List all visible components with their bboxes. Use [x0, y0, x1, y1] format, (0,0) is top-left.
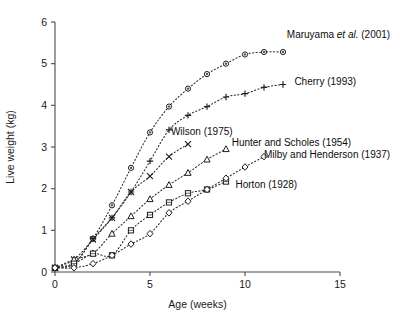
series-label-square: Milby and Henderson (1937) — [264, 149, 390, 160]
series-label-plus: Cherry (1993) — [294, 76, 356, 87]
x-axis-tick-label: 10 — [239, 278, 251, 290]
x-axis-tick-label: 5 — [147, 278, 153, 290]
y-axis-title: Live weight (kg) — [4, 110, 16, 184]
x-axis-title: Age (weeks) — [168, 298, 226, 310]
data-point-circle — [168, 106, 170, 108]
series-label-triangle: Hunter and Scholes (1954) — [232, 137, 352, 148]
growth-curve-chart: 0510150123456 Maruyama et al. (2001)Cher… — [0, 0, 400, 320]
data-point-circle — [263, 51, 265, 53]
data-point-circle — [206, 73, 208, 75]
series-label-cross: Wilson (1975) — [171, 126, 233, 137]
data-point-circle — [111, 205, 113, 207]
y-axis-tick-label: 5 — [41, 57, 47, 69]
data-point-circle — [149, 132, 151, 134]
data-point-circle — [225, 63, 227, 65]
data-point-circle — [244, 54, 246, 56]
x-axis-tick-label: 15 — [334, 278, 346, 290]
y-axis-tick-label: 0 — [41, 266, 47, 278]
data-point-circle — [282, 51, 284, 53]
data-point-circle — [187, 88, 189, 90]
chart-container: 0510150123456 Maruyama et al. (2001)Cher… — [0, 0, 400, 320]
y-axis-tick-label: 1 — [41, 224, 47, 236]
y-axis-tick-label: 4 — [41, 99, 47, 111]
y-axis-tick-label: 2 — [41, 182, 47, 194]
y-axis-tick-label: 3 — [41, 141, 47, 153]
y-axis-tick-label: 6 — [41, 16, 47, 28]
data-point-circle — [130, 167, 132, 169]
series-label-diamond: Horton (1928) — [236, 179, 298, 190]
x-axis-tick-label: 0 — [52, 278, 58, 290]
series-label-circle: Maruyama et al. (2001) — [287, 29, 390, 40]
